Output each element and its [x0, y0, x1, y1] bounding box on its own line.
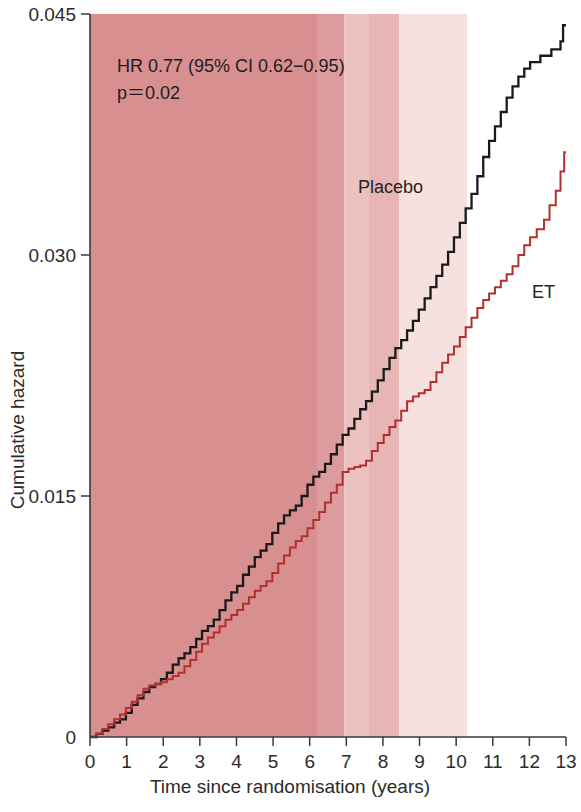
y-tick-label-0.015: 0.015: [28, 486, 76, 507]
x-tick-label-5: 5: [268, 751, 279, 772]
x-tick-label-12: 12: [519, 751, 540, 772]
x-tick-label-10: 10: [446, 751, 467, 772]
x-tick-label-9: 9: [414, 751, 425, 772]
series-label-et: ET: [532, 282, 555, 302]
cumulative-hazard-chart: 012345678910111213 00.0150.0300.045 Time…: [0, 0, 581, 812]
x-tick-label-6: 6: [304, 751, 315, 772]
p-value-annotation: p＝0.02: [117, 83, 180, 103]
x-axis-title: Time since randomisation (years): [150, 776, 430, 797]
x-tick-label-2: 2: [158, 751, 169, 772]
hazard-ratio-annotation: HR 0.77 (95% CI 0.62−0.95): [117, 56, 345, 76]
x-tick-label-4: 4: [231, 751, 242, 772]
x-tick-label-1: 1: [121, 751, 132, 772]
y-tick-label-0.030: 0.030: [28, 245, 76, 266]
band-0-6.2: [90, 14, 317, 737]
y-tick-label-0: 0: [65, 727, 76, 748]
series-label-placebo: Placebo: [358, 177, 423, 197]
band-6.95-7.6: [344, 14, 368, 737]
x-tick-label-0: 0: [85, 751, 96, 772]
x-tick-label-3: 3: [195, 751, 206, 772]
y-tick-label-0.045: 0.045: [28, 4, 76, 25]
x-tick-label-11: 11: [483, 751, 503, 772]
band-8.45-10.3: [399, 14, 467, 737]
x-tick-label-7: 7: [341, 751, 352, 772]
x-tick-label-8: 8: [378, 751, 389, 772]
x-tick-label-13: 13: [555, 751, 576, 772]
shaded-bands: [90, 14, 467, 737]
y-axis-title: Cumulative hazard: [7, 351, 28, 509]
band-6.2-6.95: [317, 14, 344, 737]
chart-page: 012345678910111213 00.0150.0300.045 Time…: [0, 0, 581, 812]
